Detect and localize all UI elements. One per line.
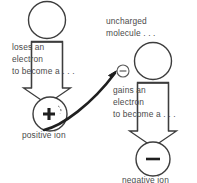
negative-ion-label: negative ion bbox=[122, 176, 169, 183]
diagram-canvas bbox=[0, 0, 197, 183]
right-step-line-2: electron bbox=[113, 98, 144, 107]
right-step-line-1: gains an bbox=[113, 86, 146, 95]
uncharged-molecule-circle bbox=[135, 43, 172, 80]
uncharged-molecule-header-line-2: molecule . . . bbox=[106, 29, 156, 38]
left-step-line-1: loses an bbox=[12, 43, 44, 52]
right-step-line-3: to become a . . . bbox=[113, 110, 176, 119]
positive-ion-label: positive ion bbox=[22, 131, 66, 140]
left-step-line-3: to become a . . . bbox=[12, 67, 75, 76]
uncharged-molecule-header-line-1: uncharged bbox=[106, 17, 147, 26]
left-step-line-2: electron bbox=[12, 55, 43, 64]
neutral-atom-circle bbox=[29, 2, 66, 39]
